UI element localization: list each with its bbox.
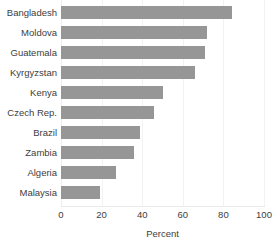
bar bbox=[61, 146, 134, 159]
bar bbox=[61, 66, 195, 79]
category-axis-labels: BangladeshMoldovaGuatemalaKyrgyzstanKeny… bbox=[0, 0, 57, 206]
bars bbox=[61, 0, 264, 206]
category-label: Bangladesh bbox=[0, 6, 57, 19]
x-tick-label: 100 bbox=[244, 209, 279, 220]
x-tick-label: 60 bbox=[163, 209, 203, 220]
category-label: Czech Rep. bbox=[0, 106, 57, 119]
bar bbox=[61, 166, 116, 179]
bar bbox=[61, 186, 100, 199]
category-label: Kenya bbox=[0, 86, 57, 99]
category-label: Guatemala bbox=[0, 46, 57, 59]
x-tick-label: 0 bbox=[41, 209, 81, 220]
bar bbox=[61, 6, 232, 19]
x-axis-title: Percent bbox=[61, 228, 264, 239]
gridline bbox=[264, 0, 265, 206]
x-axis-tick-labels: 020406080100 bbox=[0, 209, 279, 223]
category-label: Moldova bbox=[0, 26, 57, 39]
category-label: Kyrgyzstan bbox=[0, 66, 57, 79]
bar bbox=[61, 126, 140, 139]
bar-chart: BangladeshMoldovaGuatemalaKyrgyzstanKeny… bbox=[0, 0, 279, 248]
category-label: Algeria bbox=[0, 166, 57, 179]
plot-area bbox=[61, 0, 264, 206]
x-tick-label: 80 bbox=[203, 209, 243, 220]
bar bbox=[61, 86, 163, 99]
bar bbox=[61, 106, 154, 119]
x-axis-line bbox=[61, 206, 265, 207]
x-tick-label: 20 bbox=[82, 209, 122, 220]
bar bbox=[61, 26, 207, 39]
bar bbox=[61, 46, 205, 59]
category-label: Zambia bbox=[0, 146, 57, 159]
x-tick-label: 40 bbox=[122, 209, 162, 220]
category-label: Malaysia bbox=[0, 186, 57, 199]
category-label: Brazil bbox=[0, 126, 57, 139]
